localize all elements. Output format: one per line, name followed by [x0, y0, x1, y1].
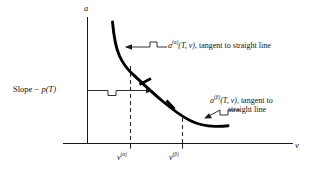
beta-curve-annotation-label: a(β)(T, v), tangent tostraight line: [210, 94, 273, 115]
alpha-description: tangent to straight line: [199, 41, 271, 50]
slope-annotation-leader: [88, 88, 153, 96]
x-axis-label: v: [295, 140, 299, 150]
slope-argument: (T): [46, 84, 56, 94]
alpha-curve-annotation-label: a(α)(T, v), tangent to straight line: [168, 39, 271, 50]
beta-argument: (T, v): [220, 96, 237, 105]
y-axis-label: a: [84, 3, 88, 13]
alpha-annotation-leader: [125, 42, 167, 50]
tick-beta-superscript: (β): [173, 151, 179, 157]
slope-prefix: Slope: [13, 84, 35, 94]
alpha-argument: (T, v): [178, 41, 195, 50]
beta-description-line1: tangent to: [241, 96, 273, 105]
tick-alpha-superscript: (α): [121, 151, 127, 157]
beta-description-line2: straight line: [210, 105, 273, 114]
x-tick-label-v-alpha: v(α): [117, 151, 127, 162]
slope-annotation-label: Slope − p(T): [13, 84, 56, 94]
figure-container: a v v(α) v(β) Slope − p(T) a(α)(T, v), t…: [0, 0, 327, 173]
x-tick-label-v-beta: v(β): [169, 151, 179, 162]
